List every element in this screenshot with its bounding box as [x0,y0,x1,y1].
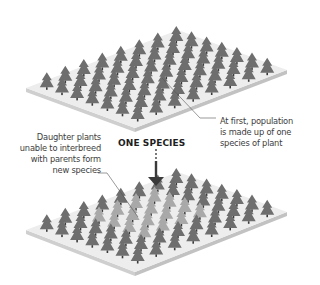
diagram-title: ONE SPECIES [118,138,185,148]
annotation-line: new species [20,165,101,176]
annotation-line: species of plant [220,138,293,149]
annotation-line: is made up of one [220,127,293,138]
annotation-line: At first, population [220,116,293,127]
annotation-line: Daughter plants [20,132,101,143]
annotation-line: with parents form [20,154,101,165]
annotation-line: unable to interbreed [20,143,101,154]
annotation-daughter-plants: Daughter plants unable to interbreed wit… [20,132,101,176]
annotation-initial-population: At first, population is made up of one s… [220,116,293,149]
